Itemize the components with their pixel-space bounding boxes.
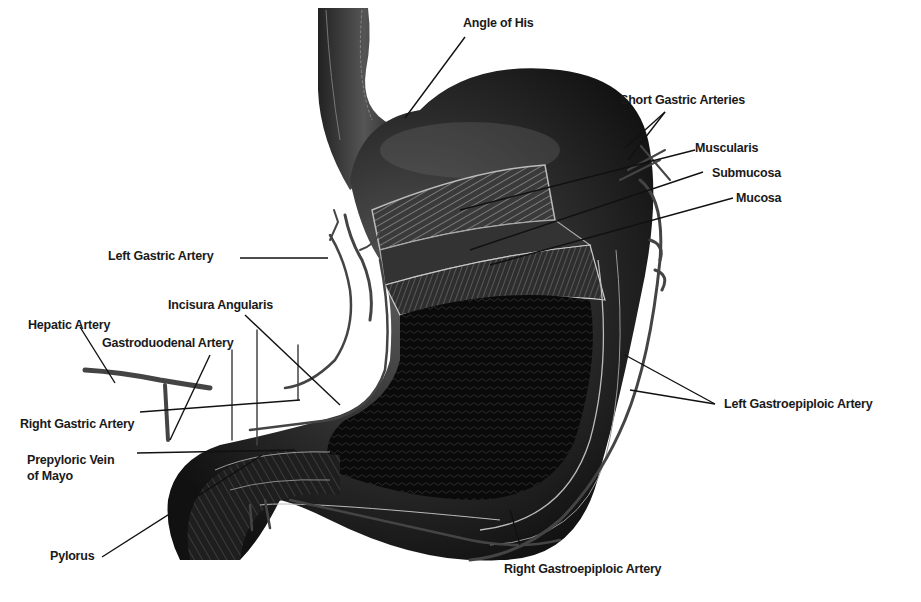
label-mucosa: Mucosa: [736, 191, 781, 206]
label-prepyloric-vein: Prepyloric Vein: [27, 453, 114, 468]
stomach-body: [168, 68, 654, 560]
label-right-gastroepiploic-artery: Right Gastroepiploic Artery: [504, 562, 661, 577]
label-pylorus: Pylorus: [50, 549, 94, 564]
label-incisura-angularis: Incisura Angularis: [168, 298, 273, 313]
label-muscularis: Muscularis: [695, 141, 758, 156]
label-hepatic-artery: Hepatic Artery: [28, 318, 110, 333]
label-angle-of-his: Angle of His: [463, 16, 534, 31]
label-left-gastric-artery: Left Gastric Artery: [108, 249, 214, 264]
label-right-gastric-artery: Right Gastric Artery: [20, 417, 134, 432]
label-submucosa: Submucosa: [712, 166, 781, 181]
label-of-mayo: of Mayo: [27, 469, 73, 484]
stomach-illustration: [0, 0, 921, 602]
label-short-gastric-arteries: Short Gastric Arteries: [620, 93, 745, 108]
stomach-diagram: Angle of His Short Gastric Arteries Musc…: [0, 0, 921, 602]
label-left-gastroepiploic-artery: Left Gastroepiploic Artery: [724, 397, 873, 412]
label-gastroduodenal-artery: Gastroduodenal Artery: [102, 336, 233, 351]
